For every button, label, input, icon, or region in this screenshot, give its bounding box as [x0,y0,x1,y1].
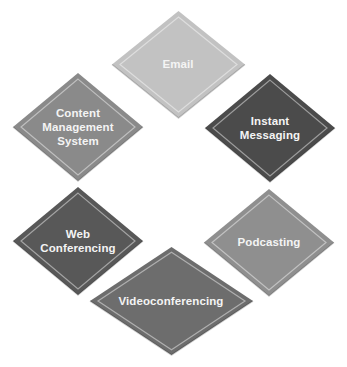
diamond-shape [205,74,335,182]
diamond-shape [13,187,143,295]
diamond-instant-messaging: Instant Messaging [205,74,335,182]
diamond-content-management-system: Content Management System [13,73,143,181]
diamond-web-conferencing: Web Conferencing [13,187,143,295]
diagram-canvas: Email Instant Messaging Podcasting Video… [0,0,347,367]
diamond-shape [13,73,143,181]
